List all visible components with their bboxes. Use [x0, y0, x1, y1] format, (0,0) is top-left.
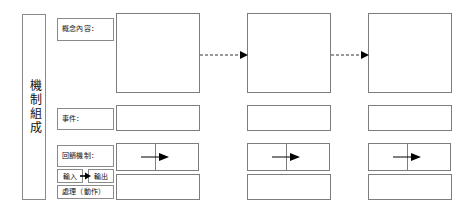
row-label-event: 事件： [57, 108, 114, 130]
output-label: 輸出 [94, 171, 108, 181]
feedback-pair-stage-3 [368, 143, 452, 171]
row-label-concept-text: 概念內容： [62, 26, 98, 33]
feedback-arrow-icon-stage-3 [393, 152, 421, 162]
action-box-stage-3 [368, 174, 452, 200]
row-label-event-text: 事件： [62, 116, 84, 123]
event-box-stage-1 [116, 105, 200, 131]
row-label-feedback-text: 回饋機制： [62, 153, 98, 160]
io-strip: 輸入 輸出 [57, 169, 114, 183]
action-label-box: 處理（動作） [57, 185, 114, 199]
connector-stage-1-to-2 [200, 48, 248, 62]
row-label-feedback: 回饋機制： [57, 145, 114, 167]
action-box-stage-2 [247, 174, 331, 200]
vertical-title-text: 機制組成 [25, 79, 42, 135]
row-label-concept: 概念內容： [57, 18, 114, 41]
feedback-arrow-icon-stage-2 [272, 152, 300, 162]
concept-box-stage-1 [116, 13, 200, 93]
connector-stage-2-to-3 [331, 48, 369, 62]
feedback-arrow-icon-stage-1 [141, 152, 169, 162]
feedback-pair-stage-2 [247, 143, 331, 171]
action-label-text: 處理（動作） [62, 189, 105, 196]
vertical-title-column: 機制組成 [22, 14, 46, 200]
action-box-stage-1 [116, 174, 200, 200]
mechanism-composition-diagram: 機制組成 概念內容： 事件： 回饋機制： 輸入 輸出 處理（動作） [0, 0, 472, 211]
output-box: 輸出 [88, 169, 114, 183]
event-box-stage-2 [247, 105, 331, 131]
concept-box-stage-3 [368, 13, 452, 93]
feedback-pair-stage-1 [116, 143, 200, 171]
input-label: 輸入 [63, 171, 77, 181]
io-right-arrow-icon [80, 172, 91, 180]
event-box-stage-3 [368, 105, 452, 131]
concept-box-stage-2 [247, 13, 331, 93]
